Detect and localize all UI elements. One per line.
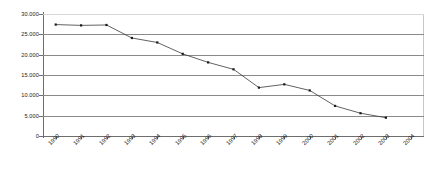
data-point-marker [232, 68, 234, 70]
data-point-marker [385, 117, 387, 119]
series-line [56, 25, 386, 118]
data-point-marker [283, 83, 285, 85]
line-chart: 05.00010.00015.00020.00025.00030.000 199… [0, 0, 437, 175]
series-markers [55, 23, 387, 118]
data-point-marker [131, 37, 133, 39]
data-series-layer [0, 0, 437, 175]
data-point-marker [105, 24, 107, 26]
data-point-marker [334, 105, 336, 107]
data-point-marker [207, 61, 209, 63]
data-point-marker [182, 53, 184, 55]
data-point-marker [309, 89, 311, 91]
data-point-marker [55, 23, 57, 25]
data-point-marker [359, 112, 361, 114]
data-point-marker [80, 24, 82, 26]
data-point-marker [258, 87, 260, 89]
data-point-marker [156, 41, 158, 43]
